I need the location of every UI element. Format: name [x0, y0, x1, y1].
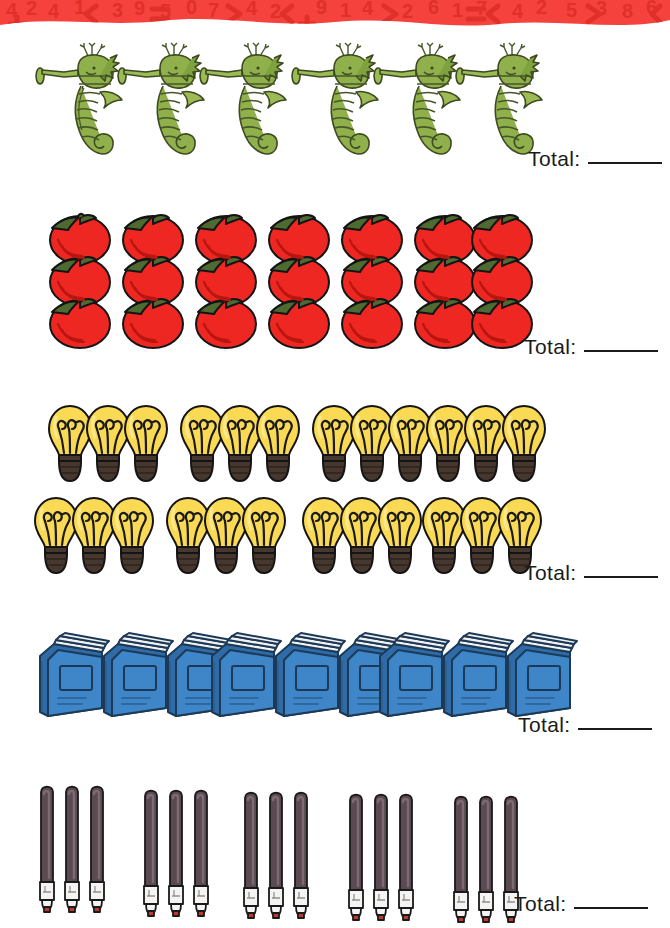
lightbulb-group: [32, 495, 156, 577]
total-tomatoes: Total:: [524, 335, 658, 359]
tomato-stack: [190, 210, 262, 350]
total-answer-blank[interactable]: [588, 162, 662, 164]
lightbulb-icon: [254, 403, 302, 485]
tomato-stack: [336, 210, 408, 350]
lightbulb-icon: [376, 495, 424, 577]
svg-text:4: 4: [362, 0, 374, 19]
svg-text:4: 4: [512, 0, 524, 22]
lightbulb-icon: [240, 495, 288, 577]
marker-icon: [86, 780, 108, 912]
lightbulb-group: [178, 403, 302, 485]
lightbulb-group: [310, 403, 434, 485]
tomato-icon: [117, 210, 189, 350]
lightbulb-group: [164, 495, 288, 577]
svg-text:9: 9: [134, 0, 145, 19]
marker-icon: [290, 786, 312, 918]
total-answer-blank[interactable]: [578, 728, 652, 730]
svg-text:2: 2: [26, 0, 37, 19]
svg-text:3: 3: [112, 0, 123, 21]
tomato-icon: [44, 210, 116, 350]
marker-icon: [450, 790, 472, 922]
lightbulb-group: [424, 403, 548, 485]
row-seahorses: Total:: [0, 46, 670, 181]
svg-text:1: 1: [340, 0, 351, 21]
seahorse-icon: [372, 46, 460, 168]
row-tomatoes: Total:: [0, 210, 670, 355]
svg-text:5: 5: [566, 0, 577, 21]
svg-text:0: 0: [186, 0, 197, 18]
svg-text:1: 1: [74, 0, 85, 18]
tomato-stack: [117, 210, 189, 350]
tomato-icon: [263, 210, 335, 350]
tomato-stack: [263, 210, 335, 350]
svg-text:4: 4: [246, 0, 258, 19]
marker-icon: [190, 784, 212, 916]
svg-text:2: 2: [402, 0, 413, 22]
marker-icon: [475, 790, 497, 922]
total-lightbulbs: Total:: [524, 561, 658, 585]
tomato-icon: [466, 210, 538, 350]
marker-group: [240, 786, 312, 918]
seahorse-icon: [198, 46, 286, 168]
svg-text:6: 6: [428, 0, 439, 18]
row-lightbulbs: Total:: [0, 403, 670, 583]
marker-group: [36, 780, 108, 912]
lightbulb-group: [300, 495, 424, 577]
total-label: Total:: [518, 713, 571, 736]
tomato-icon: [190, 210, 262, 350]
tomato-stack: [44, 210, 116, 350]
total-books: Total:: [518, 713, 652, 737]
worksheet-page: 4 2 4 1 3 9 5 0 7 4 2 9 1 4 2 6 1: [0, 0, 670, 928]
marker-icon: [61, 780, 83, 912]
total-label: Total:: [524, 335, 577, 358]
marker-icon: [140, 784, 162, 916]
marker-icon: [370, 788, 392, 920]
row-books: Total:: [0, 630, 670, 740]
lightbulb-group: [46, 403, 170, 485]
marker-icon: [240, 786, 262, 918]
marker-icon: [165, 784, 187, 916]
marker-icon: [345, 788, 367, 920]
total-answer-blank[interactable]: [584, 576, 658, 578]
row-markers: Total:: [0, 780, 670, 920]
svg-text:2: 2: [536, 0, 547, 18]
marker-group: [140, 784, 212, 916]
svg-text:8: 8: [622, 0, 633, 22]
lightbulb-icon: [122, 403, 170, 485]
svg-text:9: 9: [316, 0, 327, 18]
total-label: Total:: [528, 147, 581, 170]
seahorse-group: [34, 46, 286, 168]
book-group: [372, 630, 578, 722]
total-label: Total:: [514, 892, 567, 915]
tomato-stack: [466, 210, 538, 350]
total-label: Total:: [524, 561, 577, 584]
marker-icon: [36, 780, 58, 912]
marker-icon: [395, 788, 417, 920]
seahorse-group: [290, 46, 542, 168]
lightbulb-icon: [500, 403, 548, 485]
marker-group: [345, 788, 417, 920]
seahorse-icon: [34, 46, 122, 168]
marker-icon: [265, 786, 287, 918]
tomato-icon: [336, 210, 408, 350]
book-icon: [500, 630, 578, 722]
seahorse-icon: [290, 46, 378, 168]
svg-text:7: 7: [208, 0, 219, 21]
total-seahorses: Total:: [528, 147, 662, 171]
svg-text:2: 2: [270, 0, 281, 22]
svg-text:4: 4: [48, 0, 60, 22]
seahorse-icon: [116, 46, 204, 168]
marker-group: [450, 790, 522, 922]
total-answer-blank[interactable]: [574, 907, 648, 909]
lightbulb-icon: [108, 495, 156, 577]
total-answer-blank[interactable]: [584, 350, 658, 352]
decorative-number-border: 4 2 4 1 3 9 5 0 7 4 2 9 1 4 2 6 1: [0, 0, 670, 34]
total-markers: Total:: [514, 892, 648, 916]
svg-text:1: 1: [452, 0, 463, 21]
